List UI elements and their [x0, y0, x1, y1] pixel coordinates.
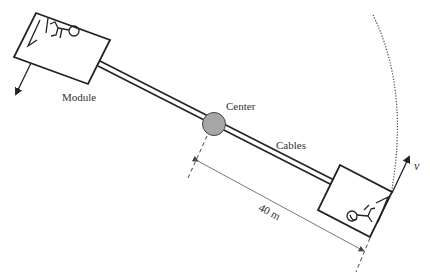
right-module — [318, 165, 392, 237]
center-reference-line — [188, 136, 207, 178]
distance-label: 40 m — [257, 201, 283, 222]
circular-path-arc — [373, 15, 397, 195]
center-label: Center — [226, 100, 256, 112]
module-reference-line — [356, 238, 370, 272]
velocity-label: v — [414, 159, 420, 173]
module-label: Module — [62, 91, 96, 103]
velocity-arrow — [392, 157, 409, 193]
left-module — [14, 13, 110, 84]
rotating-module-diagram: Module Center Cables 40 m v — [0, 0, 430, 278]
center-hub — [203, 113, 226, 136]
cables-label: Cables — [276, 139, 306, 151]
left-motion-arrow — [16, 63, 31, 94]
